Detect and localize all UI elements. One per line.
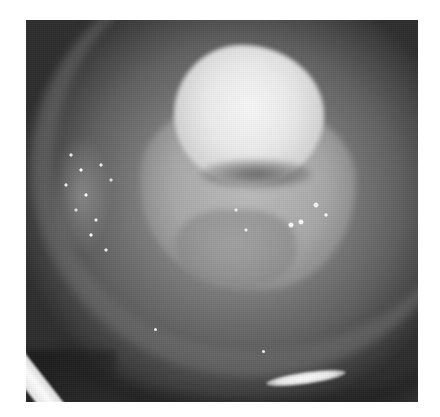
- film-grain: [26, 20, 418, 402]
- clinical-photograph: [26, 20, 418, 402]
